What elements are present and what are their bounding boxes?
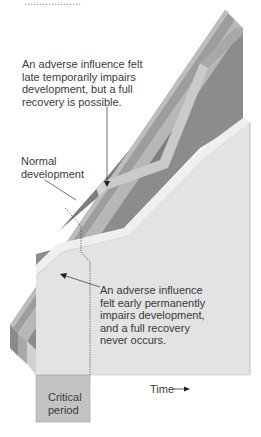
- critical-period-label: Critical period: [48, 391, 82, 416]
- normal-development-label: Normal development: [21, 155, 84, 180]
- time-arrow-icon: [184, 387, 190, 392]
- late-influence-label: An adverse influence felt late temporari…: [22, 58, 142, 108]
- normal-development-pointer: [45, 180, 76, 200]
- cropped-caption-text: ...................: [24, 0, 81, 9]
- time-axis-label: Time: [150, 383, 174, 396]
- early-influence-label: An adverse influence felt early permanen…: [100, 284, 205, 347]
